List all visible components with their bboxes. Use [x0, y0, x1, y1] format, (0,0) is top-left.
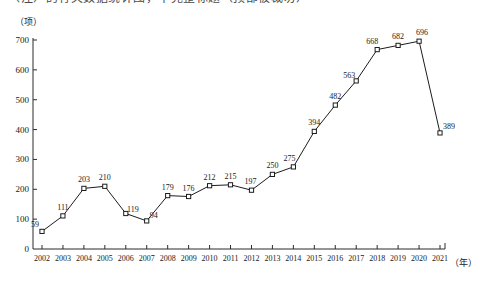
data-point-value-label: 210: [99, 173, 111, 182]
y-tick-label: 600: [16, 65, 30, 75]
data-point-marker: [375, 48, 379, 52]
data-point-markers: [40, 39, 442, 233]
y-tick-label: 700: [16, 35, 30, 45]
x-tick-label: 2019: [390, 254, 406, 263]
x-axis-ticks: 2002200320042005200620072008200920102011…: [34, 245, 448, 263]
data-point-marker: [438, 131, 442, 135]
data-point-value-label: 119: [127, 205, 139, 214]
data-point-marker: [103, 184, 107, 188]
data-point-value-label: 94: [150, 211, 158, 220]
data-point-value-label: 682: [392, 32, 404, 41]
y-tick-label: 500: [16, 95, 30, 105]
data-point-marker: [270, 172, 274, 176]
data-point-labels: 5911120321011994179176212215197250275394…: [31, 28, 455, 229]
data-point-marker: [61, 214, 65, 218]
x-tick-label: 2018: [369, 254, 385, 263]
x-tick-label: 2009: [181, 254, 197, 263]
x-tick-label: 2013: [264, 254, 280, 263]
data-point-value-label: 111: [57, 203, 68, 212]
x-tick-label: 2020: [411, 254, 427, 263]
x-tick-label: 2012: [243, 254, 259, 263]
y-tick-label: 100: [16, 214, 30, 224]
data-point-marker: [417, 39, 421, 43]
x-tick-label: 2006: [118, 254, 134, 263]
x-tick-label: 2016: [327, 254, 343, 263]
x-tick-label: 2004: [76, 254, 92, 263]
data-point-marker: [166, 194, 170, 198]
y-tick-label: 300: [16, 154, 30, 164]
data-point-marker: [208, 184, 212, 188]
series-line: [42, 41, 440, 231]
data-point-value-label: 389: [443, 122, 455, 131]
x-tick-label: 2005: [97, 254, 113, 263]
data-point-value-label: 563: [343, 71, 355, 80]
data-point-value-label: 212: [204, 173, 216, 182]
data-point-value-label: 668: [366, 37, 378, 46]
data-point-value-label: 59: [31, 220, 39, 229]
data-point-marker: [249, 188, 253, 192]
x-tick-label: 2011: [223, 254, 239, 263]
data-point-value-label: 394: [308, 118, 320, 127]
data-point-marker: [187, 194, 191, 198]
data-point-marker: [145, 219, 149, 223]
x-tick-label: 2003: [55, 254, 71, 263]
data-point-marker: [312, 129, 316, 133]
data-point-value-label: 176: [183, 184, 195, 193]
data-point-marker: [291, 165, 295, 169]
data-point-value-label: 203: [78, 175, 90, 184]
x-tick-label: 2008: [160, 254, 176, 263]
x-tick-label: 2007: [139, 254, 155, 263]
x-tick-label: 2015: [306, 254, 322, 263]
y-tick-label: 200: [16, 184, 30, 194]
data-point-value-label: 215: [225, 172, 237, 181]
line-chart-plot: 0100200300400500600700 20022003200420052…: [0, 0, 480, 282]
data-point-value-label: 250: [266, 161, 278, 170]
axes: [33, 38, 445, 249]
x-tick-label: 2014: [285, 254, 301, 263]
data-point-marker: [396, 43, 400, 47]
x-tick-label: 2002: [34, 254, 50, 263]
data-point-marker: [82, 186, 86, 190]
x-tick-label: 2021: [432, 254, 448, 263]
data-point-marker: [228, 183, 232, 187]
x-tick-label: 2010: [202, 254, 218, 263]
data-point-marker: [333, 103, 337, 107]
x-tick-label: 2017: [348, 254, 364, 263]
data-point-value-label: 275: [283, 154, 295, 163]
data-point-value-label: 482: [329, 92, 341, 101]
data-point-marker: [40, 229, 44, 233]
data-point-value-label: 179: [162, 183, 174, 192]
chart-figure: （注）的有关数据统计图，不完整标题（顶部被裁切） （项） （年） 0100200…: [0, 0, 480, 282]
y-tick-label: 0: [25, 244, 30, 254]
y-tick-label: 400: [16, 125, 30, 135]
data-point-value-label: 696: [416, 28, 428, 37]
data-point-value-label: 197: [245, 177, 257, 186]
